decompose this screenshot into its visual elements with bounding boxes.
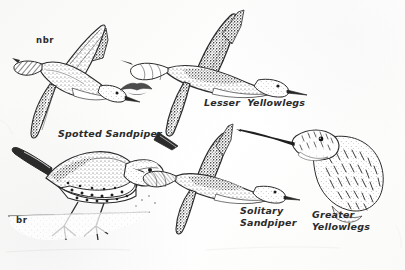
label-greater-yellowlegs-line1: Greater (312, 210, 354, 220)
figure-lesser-yellowlegs-flight (120, 10, 307, 136)
label-breeding-code: br (16, 216, 27, 225)
label-solitary-sandpiper-line1: Solitary (240, 206, 283, 216)
label-lesser-yellowlegs: Lesser Yellowlegs (204, 98, 305, 108)
label-greater-yellowlegs-line2: Yellowlegs (312, 222, 370, 232)
figure-spotted-sandpiper-flight (12, 25, 140, 138)
figure-spotted-sandpiper-standing (8, 147, 180, 240)
illustration-plate: nbr br Spotted Sandpiper Lesser Yellowle… (0, 0, 405, 270)
label-spotted-sandpiper: Spotted Sandpiper (58, 129, 162, 139)
label-solitary-sandpiper-line2: Sandpiper (240, 218, 297, 228)
label-nonbreeding-code: nbr (36, 36, 54, 45)
